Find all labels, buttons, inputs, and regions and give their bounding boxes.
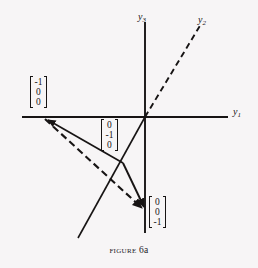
vector-component-3: 0	[107, 140, 112, 150]
axis-label-y1-subscript: 1	[237, 111, 241, 119]
vector-component-2: 0	[155, 207, 160, 217]
axis-label-y1: y1	[233, 107, 241, 119]
bracket-right-icon	[163, 196, 166, 228]
vector-components: 0 0 -1	[152, 196, 163, 228]
vector-components: 0 -1 0	[104, 119, 115, 151]
vector-component-1: 0	[155, 197, 160, 207]
vector-component-3: -1	[154, 217, 162, 227]
vector-component-3: 0	[36, 97, 41, 107]
vector-component-1: -1	[35, 77, 43, 87]
vector-label-minus-x: -1 0 0	[30, 76, 47, 108]
axis-label-y3-subscript: 3	[142, 16, 146, 24]
diagram-canvas	[0, 0, 258, 268]
vector-components: -1 0 0	[33, 76, 44, 108]
axis-label-y2-subscript: 2	[202, 19, 206, 27]
figure-6a-diagram: y1 y2 y3 -1 0 0 0 -1 0 0 0 -1 Figure 6a	[0, 0, 258, 268]
axis-line-y2-positive	[145, 24, 201, 117]
vector-component-1: 0	[107, 120, 112, 130]
figure-caption-word: Figure	[109, 244, 136, 255]
axis-label-y3: y3	[138, 12, 146, 24]
axis-label-y2: y2	[198, 15, 206, 27]
vector-label-minus-y: 0 -1 0	[101, 119, 118, 151]
vector-component-2: 0	[36, 87, 41, 97]
edge-a-to-c	[45, 119, 142, 208]
edge-b-to-c	[123, 163, 144, 207]
bracket-right-icon	[44, 76, 47, 108]
vector-label-minus-z: 0 0 -1	[149, 196, 166, 228]
bracket-right-icon	[115, 119, 118, 151]
figure-caption: Figure 6a	[0, 244, 258, 255]
vector-component-2: -1	[106, 130, 114, 140]
figure-caption-number: 6a	[139, 245, 149, 255]
